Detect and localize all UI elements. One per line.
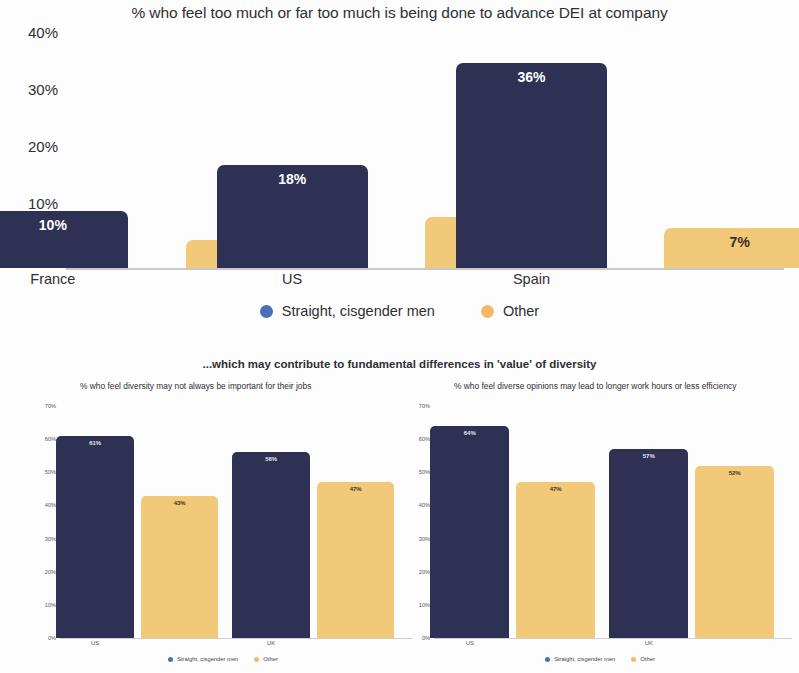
bottom-left-chart-title: % who feel diversity may not always be i… (28, 381, 418, 391)
bar-us-series-2: 47% (516, 482, 595, 638)
legend-item-straight-cisgender-men[interactable]: Straight, cisgender men (260, 303, 435, 319)
bottom-right-legend: Straight, cisgender men Other (402, 656, 798, 662)
x-axis-tick-label: Spain (513, 271, 550, 287)
y-axis-tick-label: 70% (45, 403, 56, 409)
legend-item-other[interactable]: Other (631, 656, 655, 662)
y-axis-tick-label: 20% (419, 569, 430, 575)
top-chart-title: % who feel too much or far too much is b… (0, 4, 799, 22)
y-axis-tick-label: 10% (45, 602, 56, 608)
bar-value-label: 47% (317, 486, 394, 492)
x-axis-tick-label: US (91, 640, 99, 646)
y-axis-tick-label: 30% (419, 536, 430, 542)
y-axis-tick-label: 20% (28, 138, 58, 155)
bar-spain-series-2: 7% (664, 228, 799, 268)
y-axis-tick-label: 40% (28, 24, 58, 41)
legend-item-other[interactable]: Other (481, 303, 539, 319)
bottom-right-x-axis: USUK (434, 640, 792, 652)
bottom-left-chart: % who feel diversity may not always be i… (28, 378, 418, 673)
legend-item-straight-cisgender-men[interactable]: Straight, cisgender men (168, 656, 238, 662)
circle-legend-icon (168, 657, 173, 662)
bottom-charts-row: % who feel diversity may not always be i… (0, 378, 799, 673)
circle-legend-icon (260, 305, 273, 318)
mid-subtitle: ...which may contribute to fundamental d… (0, 358, 799, 370)
bar-value-label: 52% (695, 470, 774, 476)
circle-legend-icon (631, 657, 636, 662)
y-axis-tick-label: 30% (28, 81, 58, 98)
bottom-right-plot-area: 64%47%57%52% (434, 406, 792, 638)
bottom-right-baseline (434, 638, 792, 639)
infographic-page: % who feel too much or far too much is b… (0, 0, 799, 673)
circle-legend-icon (545, 657, 550, 662)
bottom-left-baseline (60, 638, 412, 639)
x-axis-tick-label: UK (645, 640, 653, 646)
legend-item-straight-cisgender-men[interactable]: Straight, cisgender men (545, 656, 615, 662)
bottom-left-y-axis: 0%10%20%30%40%50%60%70% (28, 406, 58, 638)
bottom-right-y-axis: 0%10%20%30%40%50%60%70% (402, 406, 432, 638)
bottom-right-chart: % who feel diverse opinions may lead to … (402, 378, 798, 673)
bar-value-label: 36% (456, 69, 607, 85)
top-chart-plot-area: 10%5%18%9%36%7% (66, 40, 784, 268)
bar-value-label: 64% (430, 430, 509, 436)
bar-uk-series-1: 56% (232, 452, 309, 638)
y-axis-tick-label: 0% (48, 635, 56, 641)
bar-value-label: 43% (141, 500, 218, 506)
legend-label-series-2: Other (263, 656, 278, 662)
y-axis-tick-label: 30% (45, 536, 56, 542)
legend-item-other[interactable]: Other (254, 656, 278, 662)
top-chart: % who feel too much or far too much is b… (0, 0, 799, 345)
top-chart-legend: Straight, cisgender men Other (0, 303, 799, 319)
bar-value-label: 18% (217, 171, 368, 187)
x-axis-tick-label: US (466, 640, 474, 646)
bar-us-series-1: 61% (56, 436, 133, 638)
bar-value-label: 57% (609, 453, 688, 459)
y-axis-tick-label: 0% (422, 635, 430, 641)
bar-value-label: 47% (516, 486, 595, 492)
circle-legend-icon (254, 657, 259, 662)
legend-label-series-1: Straight, cisgender men (282, 303, 435, 319)
circle-legend-icon (481, 305, 494, 318)
bar-value-label: 61% (56, 440, 133, 446)
bottom-left-x-axis: USUK (60, 640, 412, 652)
legend-label-series-2: Other (640, 656, 655, 662)
bar-france-series-1: 10% (0, 211, 128, 268)
top-chart-x-axis: FranceUSSpain (66, 271, 784, 293)
y-axis-tick-label: 40% (45, 502, 56, 508)
y-axis-tick-label: 10% (28, 195, 58, 212)
bar-us-series-1: 18% (217, 165, 368, 268)
bar-spain-series-1: 36% (456, 63, 607, 268)
x-axis-tick-label: UK (267, 640, 275, 646)
bar-uk-series-1: 57% (609, 449, 688, 638)
x-axis-tick-label: France (30, 271, 75, 287)
y-axis-tick-label: 20% (45, 569, 56, 575)
legend-label-series-1: Straight, cisgender men (554, 656, 615, 662)
y-axis-tick-label: 70% (419, 403, 430, 409)
bar-us-series-2: 43% (141, 496, 218, 639)
bar-uk-series-2: 47% (317, 482, 394, 638)
y-axis-tick-label: 40% (419, 502, 430, 508)
bottom-right-chart-title: % who feel diverse opinions may lead to … (402, 381, 798, 391)
top-chart-baseline (66, 268, 784, 270)
y-axis-tick-label: 10% (419, 602, 430, 608)
bar-value-label: 56% (232, 456, 309, 462)
bar-uk-series-2: 52% (695, 466, 774, 638)
bar-value-label: 10% (0, 217, 128, 233)
bar-value-label: 7% (664, 234, 799, 250)
legend-label-series-1: Straight, cisgender men (177, 656, 238, 662)
bottom-left-legend: Straight, cisgender men Other (28, 656, 418, 662)
bottom-left-plot-area: 61%43%56%47% (60, 406, 412, 638)
legend-label-series-2: Other (503, 303, 539, 319)
y-axis-tick-label: 50% (419, 469, 430, 475)
bar-us-series-1: 64% (430, 426, 509, 638)
y-axis-tick-label: 50% (45, 469, 56, 475)
y-axis-tick-label: 60% (45, 436, 56, 442)
x-axis-tick-label: US (282, 271, 302, 287)
y-axis-tick-label: 60% (419, 436, 430, 442)
